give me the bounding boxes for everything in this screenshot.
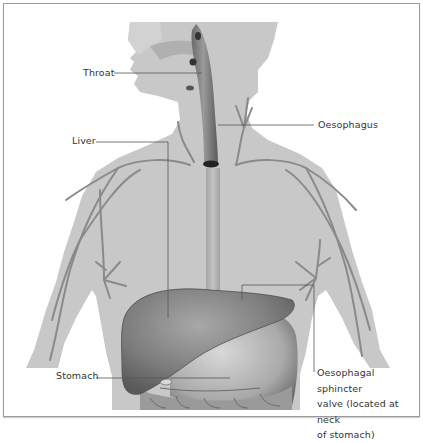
label-liver: Liver bbox=[72, 134, 96, 147]
label-sphincter: Oesophagal sphincter valve (located at n… bbox=[317, 365, 417, 443]
label-sphincter-line1: Oesophagal sphincter bbox=[317, 365, 417, 396]
label-throat: Throat bbox=[83, 66, 114, 79]
label-sphincter-line2: valve (located at neck bbox=[317, 396, 417, 427]
label-sphincter-line3: of stomach) bbox=[317, 427, 417, 443]
label-oesophagus: Oesophagus bbox=[318, 118, 378, 131]
label-stomach: Stomach bbox=[56, 369, 99, 382]
